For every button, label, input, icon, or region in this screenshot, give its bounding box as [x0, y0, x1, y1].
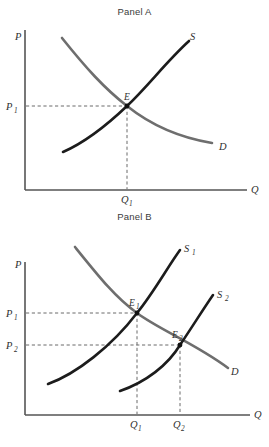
panel-b-chart: P Q P 1 P 2 Q 1 Q 2 S 1 S 2 D E 1 E 2 [0, 210, 269, 447]
panel-a-supply-label: S [190, 31, 196, 42]
panel-b-demand-label: D [230, 366, 239, 377]
panel-b-equilibrium-1-dot [135, 311, 140, 316]
panel-b-supply-1-curve [48, 250, 180, 384]
panel-a-quantity-tick-label: Q [121, 194, 129, 205]
panel-b-equilibrium-2-dot [178, 343, 183, 348]
panel-b-x-axis-label: Q [254, 409, 262, 420]
panel-a-quantity-tick-sub: 1 [129, 199, 133, 208]
panel-b-supply-2-label: S [217, 289, 223, 300]
panel-a-chart: P Q P 1 Q 1 S D E [0, 0, 269, 210]
panel-a-demand-label: D [218, 141, 227, 152]
panel-a-x-axis-label: Q [251, 184, 259, 195]
panel-a-equilibrium-dot [125, 104, 130, 109]
panel-b-price-1-tick-label: P [5, 308, 13, 319]
panel-a-price-tick-label: P [5, 101, 13, 112]
supply-demand-figure: Panel A Panel B P Q P 1 Q 1 S D E [0, 0, 269, 447]
panel-b-equilibrium-1-sub: 1 [136, 302, 140, 311]
panel-b-quantity-2-tick-label: Q [173, 419, 181, 430]
panel-b-supply-2-sub: 2 [225, 294, 229, 303]
panel-b-quantity-1-tick-label: Q [130, 419, 138, 430]
panel-b-price-1-tick-sub: 1 [14, 313, 18, 322]
panel-a-price-tick-sub: 1 [14, 106, 18, 115]
panel-a-demand-curve [62, 38, 212, 143]
panel-b-equilibrium-2-label: E [171, 330, 178, 340]
panel-b-y-axis-label: P [14, 259, 22, 270]
panel-b-supply-1-sub: 1 [192, 248, 196, 257]
panel-a-equilibrium-label: E [123, 92, 130, 102]
panel-b-equilibrium-1-label: E [128, 298, 135, 308]
panel-b-quantity-2-tick-sub: 2 [181, 424, 185, 433]
panel-b-supply-1-label: S [184, 243, 190, 254]
panel-b-quantity-1-tick-sub: 1 [138, 424, 142, 433]
panel-b-equilibrium-2-sub: 2 [179, 334, 183, 343]
panel-b-price-2-tick-sub: 2 [14, 345, 18, 354]
panel-a-y-axis-label: P [14, 31, 22, 42]
panel-b-price-2-tick-label: P [5, 340, 13, 351]
